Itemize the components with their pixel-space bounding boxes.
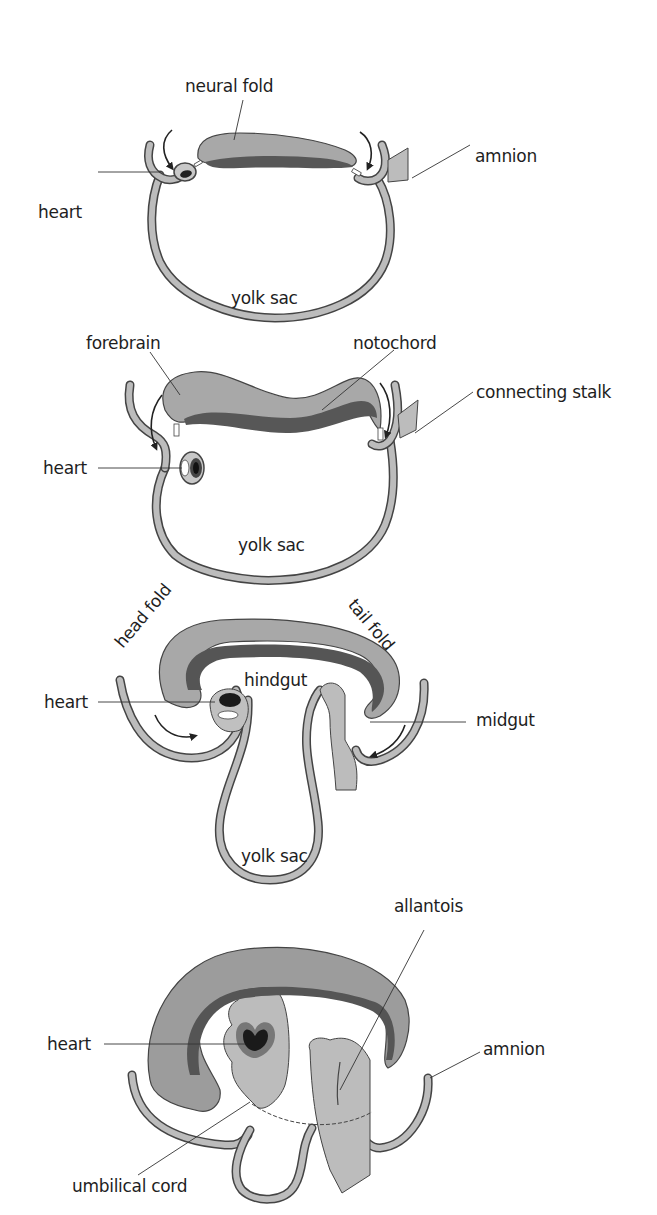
stage-3-diagram	[98, 619, 466, 880]
label-heart-1: heart	[38, 204, 82, 221]
stage-4-diagram	[104, 930, 480, 1199]
label-hindgut: hindgut	[244, 672, 307, 689]
label-amnion-4: amnion	[483, 1041, 545, 1058]
label-yolk-sac-1: yolk sac	[231, 290, 298, 307]
label-amnion-1: amnion	[475, 148, 537, 165]
label-neural-fold: neural fold	[185, 78, 273, 95]
label-connecting-stalk: connecting stalk	[476, 384, 611, 401]
label-yolk-sac-2: yolk sac	[238, 537, 305, 554]
label-heart-3: heart	[44, 694, 88, 711]
label-umbilical-cord: umbilical cord	[72, 1178, 187, 1195]
stage-1-diagram	[98, 100, 470, 318]
label-heart-4: heart	[47, 1036, 91, 1053]
label-forebrain: forebrain	[86, 335, 160, 352]
label-yolk-sac-3: yolk sac	[241, 848, 308, 865]
label-heart-2: heart	[43, 460, 87, 477]
label-allantois: allantois	[394, 898, 463, 915]
label-notochord: notochord	[353, 335, 437, 352]
embryo-folding-diagram	[0, 0, 657, 1215]
label-midgut: midgut	[476, 712, 535, 729]
